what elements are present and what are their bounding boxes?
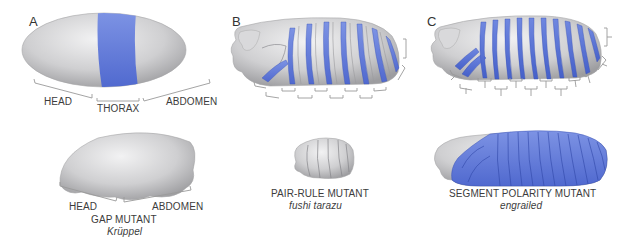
pair-rule-mutant-embryo <box>295 138 354 179</box>
panel-letter-a: A <box>29 14 38 29</box>
gap-mutant-gene: Krüppel <box>107 226 142 237</box>
panel-letter-b: B <box>232 14 241 29</box>
region-label-thorax: THORAX <box>97 103 139 114</box>
segment-polarity-mutant-title: SEGMENT POLARITY MUTANT <box>449 188 596 199</box>
gap-region-label-abdomen: ABDOMEN <box>152 201 203 212</box>
wild-type-embryo-a <box>22 12 186 88</box>
region-label-head: HEAD <box>44 96 72 107</box>
thorax-expression-band <box>98 12 139 88</box>
segment-polarity-mutant-embryo <box>434 131 607 186</box>
wild-type-embryo-b <box>231 18 399 86</box>
segment-polarity-mutant-gene: engrailed <box>500 200 542 211</box>
region-label-abdomen: ABDOMEN <box>166 96 217 107</box>
gap-mutant-title: GAP MUTANT <box>91 214 157 225</box>
wild-type-embryo-c <box>431 16 601 80</box>
panel-letter-c: C <box>427 14 436 29</box>
gap-region-label-head: HEAD <box>69 201 97 212</box>
gap-mutant-embryo <box>60 133 195 200</box>
pair-rule-mutant-title: PAIR-RULE MUTANT <box>271 188 369 199</box>
pair-rule-mutant-gene: fushi tarazu <box>289 200 342 211</box>
